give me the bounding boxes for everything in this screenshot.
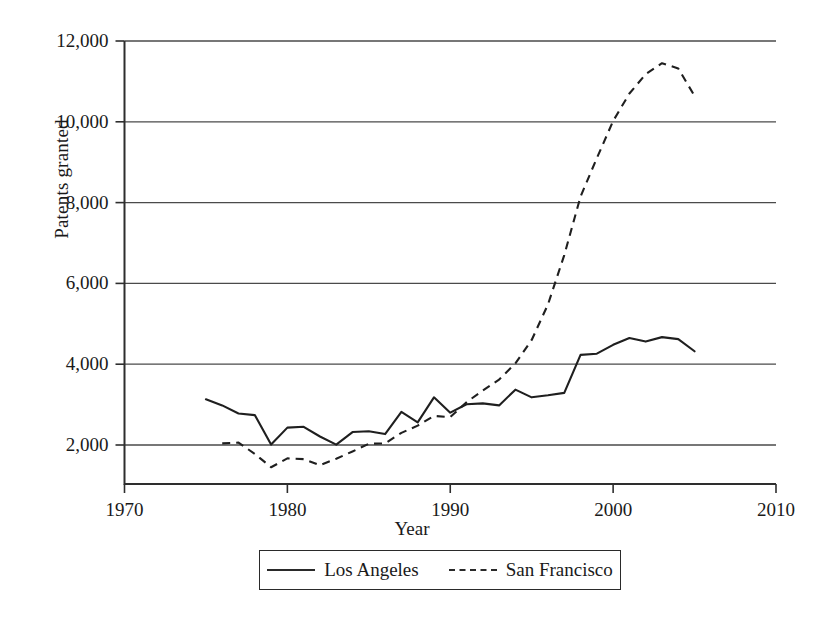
y-tick-label: 12,000 xyxy=(23,31,109,50)
legend-swatch-solid-line-icon xyxy=(267,569,315,571)
y-axis-title: Patents granted xyxy=(51,79,73,279)
y-tick-label: 6,000 xyxy=(23,273,109,292)
x-tick-label: 2010 xyxy=(731,500,821,519)
legend-label-los-angeles: Los Angeles xyxy=(324,559,418,581)
legend-item-san-francisco: San Francisco xyxy=(449,559,613,581)
chart-legend: Los Angeles San Francisco xyxy=(259,550,621,590)
y-tick-label: 8,000 xyxy=(23,193,109,212)
y-tick-label: 2,000 xyxy=(23,435,109,454)
x-tick-label: 1980 xyxy=(242,500,332,519)
x-tick-label: 1990 xyxy=(405,500,495,519)
grid-lines xyxy=(125,41,777,445)
x-tick-label: 2000 xyxy=(568,500,658,519)
x-axis-title: Year xyxy=(0,518,824,540)
series-line-san-francisco xyxy=(222,63,694,467)
data-series xyxy=(206,63,695,467)
x-tick-label: 1970 xyxy=(80,500,170,519)
legend-item-los-angeles: Los Angeles xyxy=(267,559,418,581)
legend-swatch-dashed-line-icon xyxy=(449,569,497,571)
patents-granted-chart: Patents granted 2,0004,0006,0008,00010,0… xyxy=(0,0,824,620)
y-tick-label: 4,000 xyxy=(23,354,109,373)
legend-label-san-francisco: San Francisco xyxy=(506,559,613,581)
axis-tick-marks xyxy=(116,41,777,493)
series-line-los-angeles xyxy=(206,337,695,444)
axis-lines xyxy=(125,41,777,485)
y-tick-label: 10,000 xyxy=(23,112,109,131)
